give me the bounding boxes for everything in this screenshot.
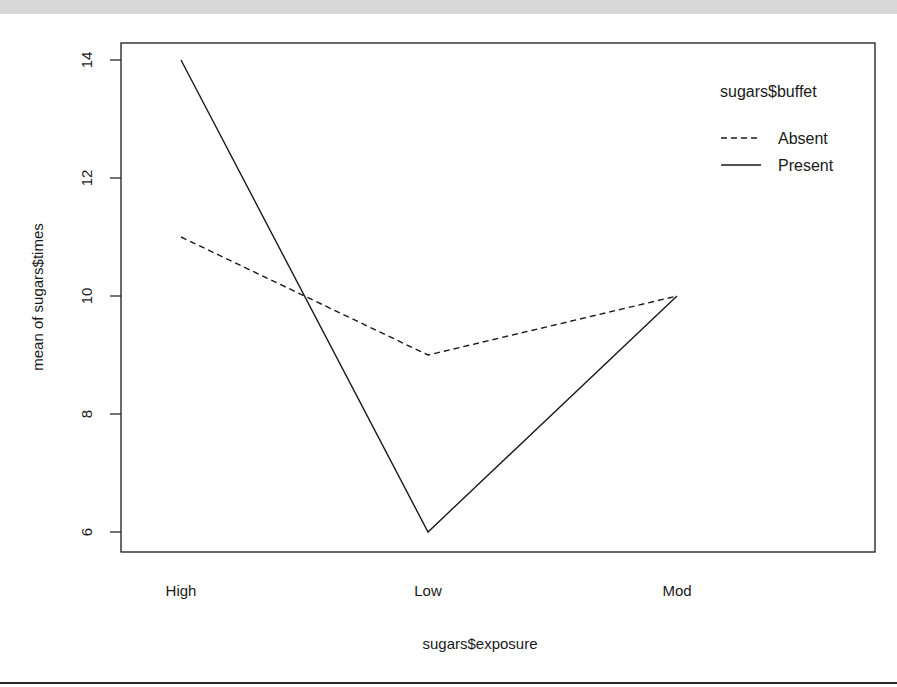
y-axis-title: mean of sugars$times	[29, 223, 46, 371]
y-tick-label: 8	[78, 410, 95, 418]
plot-frame	[121, 43, 875, 552]
series-line-present	[181, 60, 677, 532]
x-tick-label-mod: Mod	[662, 582, 691, 599]
y-tick-label: 10	[78, 288, 95, 305]
bottom-rule	[0, 682, 897, 684]
x-axis-title: sugars$exposure	[422, 635, 537, 652]
y-tick-labels: 6 8 10 12 14	[78, 52, 95, 537]
x-tick-labels: High Low Mod	[166, 582, 692, 599]
x-tick-label-high: High	[166, 582, 197, 599]
legend-label-absent: Absent	[778, 130, 828, 147]
interaction-plot: 6 8 10 12 14 mean of sugars$times High L…	[0, 0, 897, 687]
y-axis	[110, 60, 121, 532]
y-tick-label: 12	[78, 170, 95, 187]
y-tick-label: 14	[78, 52, 95, 69]
x-tick-label-low: Low	[414, 582, 442, 599]
legend-title: sugars$buffet	[720, 83, 817, 100]
legend-label-present: Present	[778, 157, 834, 174]
y-tick-label: 6	[78, 528, 95, 536]
series-line-absent	[181, 237, 677, 355]
legend: sugars$buffet Absent Present	[720, 83, 834, 174]
